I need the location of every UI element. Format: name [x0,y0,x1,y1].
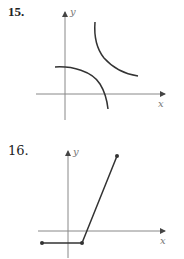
left-endpoint-dot [40,241,44,245]
top-endpoint-dot [115,154,119,158]
graph-16: y x [38,146,166,258]
upper-branch-curve [95,22,138,76]
x-axis-label: x [158,98,164,109]
lower-branch-curve [55,67,108,109]
piecewise-line [42,156,117,243]
graph-15: y x [36,6,165,120]
y-axis-label: y [72,146,79,157]
corner-dot [80,241,84,245]
y-axis-label: y [69,6,76,17]
graphs: y x y x [0,0,184,259]
x-axis-label: x [160,235,166,246]
